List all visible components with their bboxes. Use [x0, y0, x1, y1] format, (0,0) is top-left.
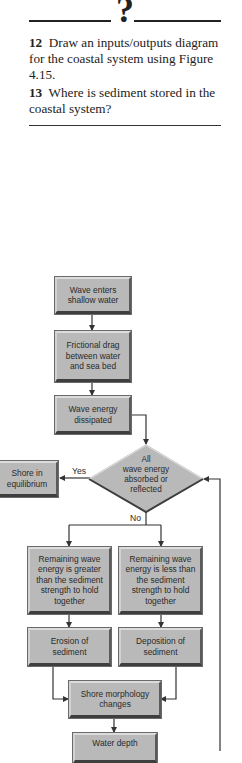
label-no: No — [130, 513, 141, 523]
node-energy-dissipated: Wave energydissipated — [55, 396, 131, 434]
node-shore-morphology: Shore morphologychanges — [69, 681, 161, 718]
node-erosion: Erosion ofsediment — [28, 628, 111, 666]
node-frictional-drag: Frictional dragbetween waterand sea bed — [55, 331, 131, 382]
node-wave-enters: Wave entersshallow water — [55, 277, 131, 314]
node-deposition: Deposition ofsediment — [119, 628, 202, 666]
label-yes: Yes — [72, 466, 86, 476]
node-equilibrium: Shore inequilibrium — [0, 461, 58, 497]
node-energy-greater: Remaining waveenergy is greaterthan the … — [28, 547, 111, 614]
node-decision: All wave energy absorbed or reflected — [108, 455, 184, 495]
node-energy-less: Remaining waveenergy is less thanthe sed… — [119, 547, 202, 614]
node-water-depth: Water depth — [73, 733, 157, 763]
